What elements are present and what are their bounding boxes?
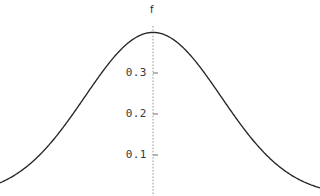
y-tick-label-0-3: 0.3 xyxy=(113,67,147,78)
plot-canvas xyxy=(0,0,320,196)
plot-figure: f 0.3 0.2 0.1 xyxy=(0,0,320,196)
density-curve xyxy=(0,32,320,187)
y-tick-label-0-2: 0.2 xyxy=(113,108,147,119)
y-axis-title: f xyxy=(150,5,154,15)
y-tick-label-0-1: 0.1 xyxy=(113,149,147,160)
